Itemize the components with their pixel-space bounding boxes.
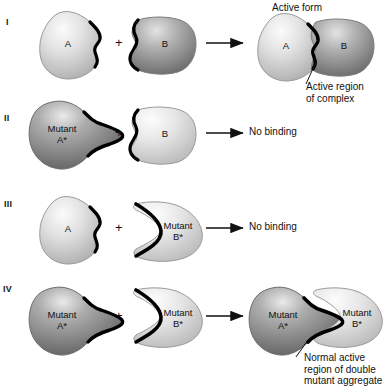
row1-protein-b — [130, 17, 196, 74]
row4-mutant-b — [134, 288, 203, 348]
annotation-active-region-of-complex: Active region of complex — [306, 81, 364, 104]
row2-protein-b — [130, 107, 196, 164]
row3-protein-a — [40, 197, 100, 264]
row-numeral-2: II — [4, 113, 10, 123]
result-no-binding-row2: No binding — [249, 126, 297, 138]
plus-sign-row3: + — [115, 221, 123, 234]
row4-complex — [249, 287, 382, 355]
annotation-normal-active-region: Normal active region of double mutant ag… — [304, 352, 382, 387]
plus-sign-row2: + — [115, 126, 123, 139]
figure-canvas: I II III IV + + + + A B A B Mutant A* B … — [0, 0, 387, 392]
row-numeral-1: I — [6, 17, 9, 27]
row4-mutant-a — [29, 287, 123, 355]
plus-sign-row1: + — [115, 36, 123, 49]
row1-protein-a — [40, 12, 100, 79]
plus-sign-row4: + — [115, 309, 123, 322]
result-no-binding-row3: No binding — [249, 221, 297, 233]
row3-mutant-b — [134, 202, 203, 262]
row-numeral-3: III — [4, 199, 12, 209]
row2-mutant-a — [29, 101, 123, 169]
annotation-active-form: Active form — [272, 2, 322, 14]
row1-complex — [258, 14, 374, 81]
protein-diagram-svg — [0, 0, 387, 392]
row-numeral-4: IV — [3, 284, 12, 294]
